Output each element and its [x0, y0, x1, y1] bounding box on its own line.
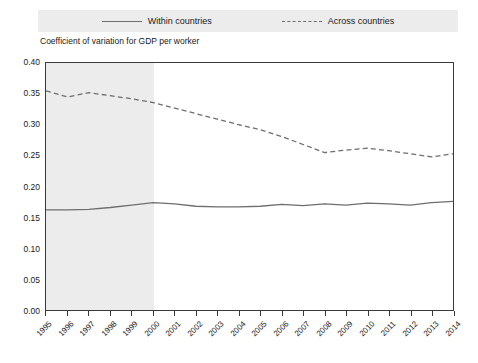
x-tick-label: 1998 — [100, 320, 118, 338]
chart-root: Within countriesAcross countries Coeffic… — [0, 0, 478, 363]
x-tick-label: 2000 — [143, 320, 161, 338]
x-tick-label: 2007 — [294, 320, 312, 338]
x-tick-mark — [282, 311, 283, 316]
x-tick-label: 2005 — [251, 320, 269, 338]
x-tick-label: 2012 — [401, 320, 419, 338]
x-tick-label: 2014 — [444, 320, 462, 338]
x-tick-mark — [239, 311, 240, 316]
series-line-2 — [46, 91, 453, 157]
x-tick-label: 2003 — [208, 320, 226, 338]
x-tick-label: 1997 — [78, 320, 96, 338]
x-tick-mark — [368, 311, 369, 316]
x-tick-label: 2008 — [315, 320, 333, 338]
x-tick-label: 2006 — [272, 320, 290, 338]
x-tick-mark — [260, 311, 261, 316]
x-tick-label: 2010 — [358, 320, 376, 338]
series-line-1 — [46, 201, 453, 210]
x-tick-mark — [432, 311, 433, 316]
x-tick-mark — [131, 311, 132, 316]
x-tick-label: 2004 — [229, 320, 247, 338]
x-tick-mark — [217, 311, 218, 316]
x-tick-label: 1995 — [35, 320, 53, 338]
plot-area — [45, 62, 454, 311]
x-tick-mark — [45, 311, 46, 316]
x-tick-mark — [110, 311, 111, 316]
x-tick-mark — [67, 311, 68, 316]
x-tick-mark — [153, 311, 154, 316]
x-tick-mark — [389, 311, 390, 316]
x-tick-mark — [174, 311, 175, 316]
series-lines — [46, 63, 453, 310]
x-tick-label: 2009 — [337, 320, 355, 338]
x-tick-mark — [196, 311, 197, 316]
x-tick-mark — [88, 311, 89, 316]
x-tick-label: 2001 — [165, 320, 183, 338]
x-tick-label: 2013 — [423, 320, 441, 338]
x-tick-mark — [303, 311, 304, 316]
x-tick-label: 2002 — [186, 320, 204, 338]
x-tick-label: 1999 — [122, 320, 140, 338]
x-tick-mark — [325, 311, 326, 316]
x-tick-mark — [411, 311, 412, 316]
x-tick-mark — [346, 311, 347, 316]
x-tick-label: 1996 — [57, 320, 75, 338]
x-tick-label: 2011 — [380, 320, 398, 338]
x-tick-mark — [454, 311, 455, 316]
